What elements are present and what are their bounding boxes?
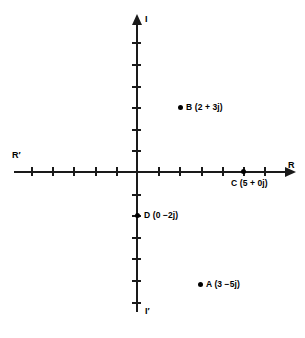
imaginary-axis-arrow-icon (132, 14, 142, 25)
point-marker-d (135, 213, 140, 218)
point-marker-b (178, 105, 183, 110)
axis-label-real-negative: R′ (12, 150, 21, 160)
axis-label-imaginary-positive: I (145, 14, 148, 24)
tick-imaginary-positive-2 (132, 129, 141, 131)
tick-real-negative-1 (116, 167, 118, 176)
point-label-b: B (2 + 3j) (186, 102, 223, 112)
point-label-a: A (3 −5j) (206, 279, 240, 289)
point-marker-a (198, 282, 203, 287)
tick-real-positive-2 (179, 167, 181, 176)
tick-imaginary-positive-5 (132, 64, 141, 66)
axis-label-real-positive: R (288, 160, 295, 170)
tick-imaginary-positive-6 (132, 42, 141, 44)
tick-real-positive-1 (158, 167, 160, 176)
tick-real-negative-4 (52, 167, 54, 176)
tick-imaginary-negative-4 (132, 258, 141, 260)
tick-imaginary-negative-6 (132, 302, 141, 304)
tick-real-positive-6 (264, 167, 266, 176)
point-label-d: D (0 −2j) (144, 210, 178, 220)
tick-imaginary-negative-1 (132, 194, 141, 196)
point-marker-c (241, 169, 246, 174)
tick-imaginary-positive-4 (132, 86, 141, 88)
tick-imaginary-positive-3 (132, 107, 141, 109)
tick-real-negative-5 (31, 167, 33, 176)
argand-diagram: R R′ I I′ B (2 + 3j)C (5 + 0j)D (0 −2j)A… (0, 0, 305, 338)
tick-real-negative-2 (95, 167, 97, 176)
axis-label-imaginary-negative: I′ (145, 306, 150, 316)
tick-real-positive-3 (201, 167, 203, 176)
tick-imaginary-negative-3 (132, 237, 141, 239)
tick-imaginary-positive-1 (132, 150, 141, 152)
tick-imaginary-negative-5 (132, 280, 141, 282)
tick-real-negative-3 (73, 167, 75, 176)
tick-real-positive-4 (222, 167, 224, 176)
point-label-c: C (5 + 0j) (231, 178, 268, 188)
